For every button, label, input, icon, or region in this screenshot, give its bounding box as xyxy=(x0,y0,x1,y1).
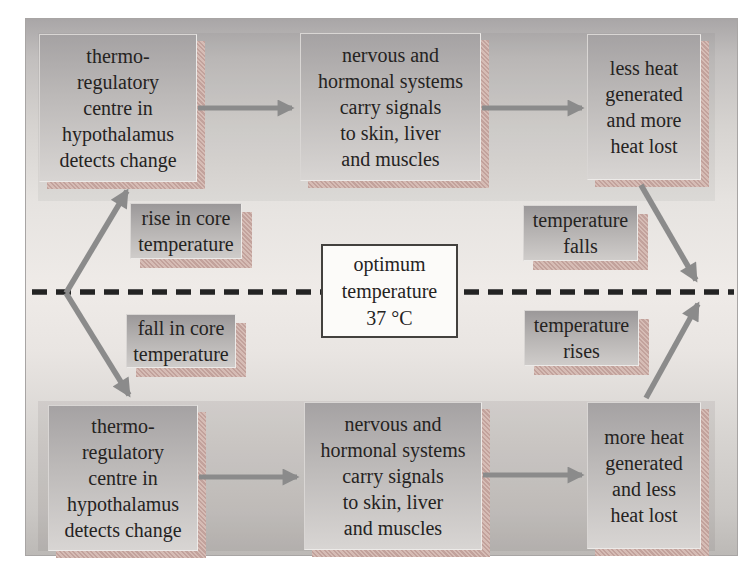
label-face: fall in core temperature xyxy=(126,314,236,368)
label-temperature-rises: temperature rises xyxy=(524,310,639,366)
label-text-line: rises xyxy=(563,338,600,364)
center-text-line: temperature xyxy=(342,278,438,305)
arrow-rise-to-thermoregulatory-centre xyxy=(66,191,127,293)
page: thermo- regulatory centre in hypothalamu… xyxy=(0,0,742,577)
label-text-line: temperature xyxy=(533,207,629,233)
label-face: temperature falls xyxy=(523,205,638,261)
label-temperature-falls: temperature falls xyxy=(523,205,638,261)
label-text-line: fall in core xyxy=(138,315,225,341)
center-text-line: 37 °C xyxy=(366,305,412,332)
label-text-line: temperature xyxy=(133,341,229,367)
label-text-line: temperature xyxy=(534,312,630,338)
arrow-fall-to-thermoregulatory-centre xyxy=(66,293,129,395)
label-text-line: falls xyxy=(563,233,597,259)
thermoregulation-diagram: thermo- regulatory centre in hypothalamu… xyxy=(25,18,738,556)
label-fall-in-core-temperature: fall in core temperature xyxy=(126,314,236,368)
box-optimum-temperature: optimum temperature 37 °C xyxy=(321,244,458,338)
arrow-less-heat-to-optimum xyxy=(641,185,696,280)
label-text-line: rise in core xyxy=(142,205,231,231)
arrow-more-heat-to-optimum xyxy=(646,304,698,398)
label-face: rise in core temperature xyxy=(130,203,242,259)
label-face: temperature rises xyxy=(524,310,639,366)
label-text-line: temperature xyxy=(138,231,234,257)
label-rise-in-core-temperature: rise in core temperature xyxy=(130,203,242,259)
center-text-line: optimum xyxy=(353,251,425,278)
